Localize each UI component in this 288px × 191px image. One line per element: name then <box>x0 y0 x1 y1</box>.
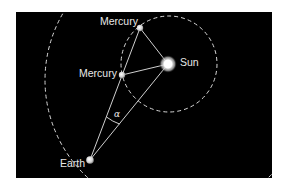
sun-icon <box>164 60 172 68</box>
earth-icon <box>86 156 94 164</box>
mercury-top-label: Mercury <box>100 15 139 27</box>
mercury-middle-label: Mercury <box>79 67 118 79</box>
elongation-diagram: Mercury Sun Mercury Earth α <box>0 0 288 191</box>
angle-alpha-label: α <box>114 109 120 119</box>
earth-label: Earth <box>60 157 85 169</box>
sun-label: Sun <box>180 56 199 68</box>
mercury-middle-icon <box>119 72 125 78</box>
space-panel <box>16 12 272 178</box>
